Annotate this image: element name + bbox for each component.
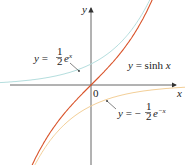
svg-text:y = sinh x: y = sinh x [127, 59, 171, 71]
label-neg-half-exp: y = − 1 2 e−x [117, 100, 167, 122]
label-sinh: y = sinh x [127, 59, 171, 71]
svg-text:2: 2 [57, 55, 63, 67]
svg-text:y = −: y = − [117, 107, 141, 119]
svg-text:2: 2 [146, 110, 152, 122]
y-axis-label: y [81, 3, 87, 15]
svg-text:e−x: e−x [153, 107, 167, 119]
svg-text:ex: ex [64, 52, 73, 64]
leader-line-pos [70, 63, 79, 71]
origin-label: 0 [93, 87, 99, 99]
label-half-exp: y = 1 2 ex [33, 45, 73, 67]
svg-text:y =: y = [33, 52, 48, 64]
x-axis-label: x [176, 87, 182, 99]
sinh-graph: y x 0 y = 1 2 ex y = sinh x y = − 1 2 e−… [0, 0, 185, 165]
neg-half-exp-curve [33, 87, 185, 165]
leader-line-neg [107, 101, 116, 109]
